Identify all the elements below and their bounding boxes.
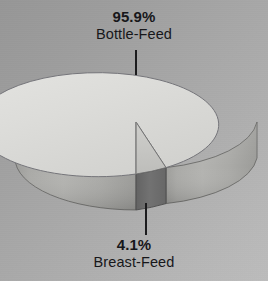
breast-feed-label: Breast-Feed bbox=[0, 254, 268, 271]
bottle-feed-label: Bottle-Feed bbox=[0, 26, 268, 43]
bottle-feed-percent: 95.9% bbox=[0, 8, 268, 26]
pie-chart-figure: 95.9% Bottle-Feed 4.1% Breast-Feed bbox=[0, 0, 268, 281]
breast-feed-side-wall bbox=[136, 168, 166, 210]
leader-line-bottle-feed bbox=[135, 50, 137, 75]
leader-line-breast-feed bbox=[145, 203, 147, 235]
breast-feed-percent: 4.1% bbox=[0, 236, 268, 254]
callout-breast-feed: 4.1% Breast-Feed bbox=[0, 236, 268, 271]
bottle-feed-top-face bbox=[0, 73, 219, 177]
callout-bottle-feed: 95.9% Bottle-Feed bbox=[0, 8, 268, 43]
